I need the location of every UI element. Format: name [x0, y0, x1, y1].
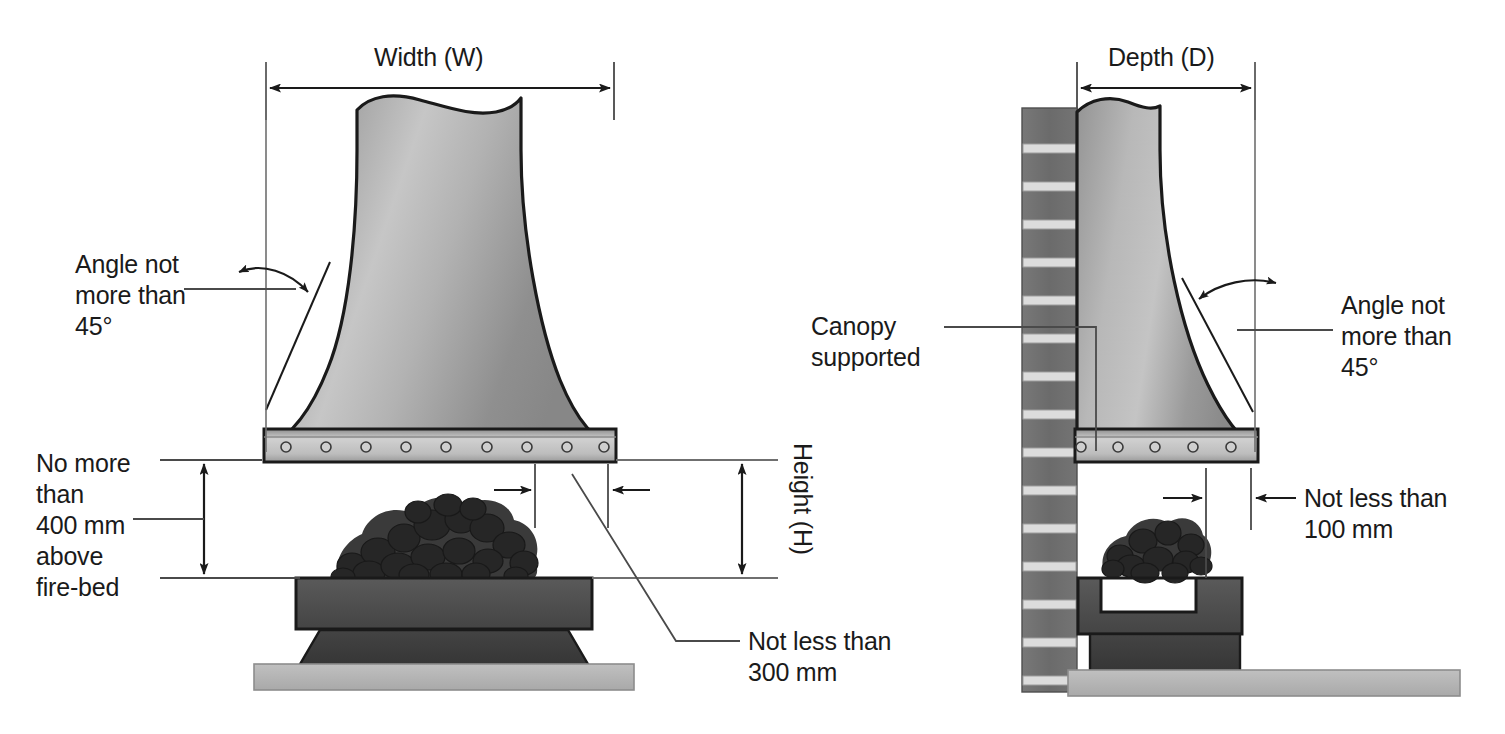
angle-note-left: Angle not more than 45° [75, 249, 186, 342]
canopy-hood-body-side [1077, 99, 1256, 452]
hearth-upper-block [296, 578, 592, 629]
hood-rim-strip-side [1075, 429, 1258, 462]
canopy-supported-note: Canopy supported [811, 311, 920, 373]
hearth-upper-block-side [1078, 578, 1242, 634]
overhang-note-leader [572, 474, 740, 641]
depth-dimension-label: Depth (D) [1108, 42, 1215, 73]
brick-mortar-joints [1023, 144, 1076, 685]
height-dimension-label: Height (H) [787, 443, 818, 555]
floor-slab [254, 664, 634, 690]
diagram-canvas: Width (W) Angle not more than 45° No mor… [0, 0, 1505, 734]
fire-bed-coal-heap [331, 494, 538, 586]
width-dimension-label: Width (W) [374, 42, 483, 73]
angle-note-right: Angle not more than 45° [1341, 290, 1452, 383]
brick-wall [1022, 108, 1077, 692]
canopy-hood-diagram [0, 0, 1505, 734]
overhang-note: Not less than 300 mm [748, 626, 891, 688]
canopy-hood-body [266, 96, 614, 452]
fire-bed-coal-heap-side [1102, 518, 1212, 583]
above-firebed-note: No more than 400 mm above fire-bed [36, 448, 130, 603]
floor-slab-side [1068, 670, 1460, 696]
front-elevation-view [133, 62, 778, 690]
clearance-note: Not less than 100 mm [1304, 483, 1447, 545]
hood-rim-strip [264, 429, 616, 462]
angle-arc-right [1199, 280, 1276, 299]
